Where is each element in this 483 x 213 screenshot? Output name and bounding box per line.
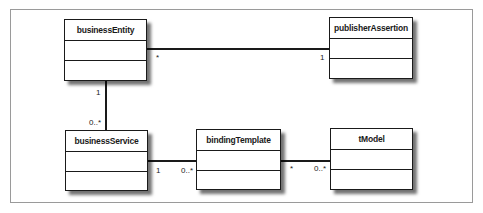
multiplicity-label: 0..* — [89, 118, 101, 127]
class-operations — [65, 61, 146, 79]
multiplicity-label: 1 — [96, 88, 100, 97]
class-binding-template: bindingTemplate — [196, 129, 281, 190]
multiplicity-label: 1 — [320, 53, 324, 62]
class-publisher-assertion: publisherAssertion — [329, 17, 413, 79]
class-name: tModel — [331, 129, 412, 150]
class-operations — [330, 59, 412, 77]
multiplicity-label: * — [290, 164, 293, 173]
class-name: publisherAssertion — [330, 18, 412, 39]
class-name: businessService — [66, 131, 147, 152]
multiplicity-label: 0..* — [181, 166, 193, 175]
class-attributes — [65, 41, 146, 61]
class-attributes — [197, 151, 280, 171]
association-entity-assertion — [147, 48, 329, 50]
class-tmodel: tModel — [330, 128, 413, 190]
multiplicity-label: 0..* — [314, 164, 326, 173]
class-attributes — [66, 152, 147, 172]
class-name: businessEntity — [65, 20, 146, 41]
association-service-binding — [148, 160, 196, 162]
class-operations — [66, 172, 147, 190]
class-attributes — [330, 39, 412, 59]
multiplicity-label: 1 — [156, 166, 160, 175]
association-binding-tmodel — [281, 160, 330, 162]
class-business-service: businessService — [65, 130, 148, 191]
class-name: bindingTemplate — [197, 130, 280, 151]
class-operations — [197, 171, 280, 189]
association-entity-service — [105, 81, 107, 130]
class-operations — [331, 170, 412, 188]
class-attributes — [331, 150, 412, 170]
multiplicity-label: * — [156, 53, 159, 62]
class-business-entity: businessEntity — [64, 19, 147, 81]
